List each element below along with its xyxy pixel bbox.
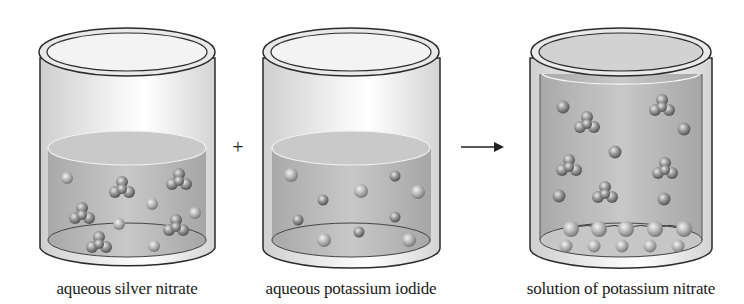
- label-potassium-iodide: aqueous potassium iodide: [266, 279, 437, 299]
- beaker-potassium-nitrate: [530, 28, 712, 268]
- label-potassium-nitrate: solution of potassium nitrate: [527, 279, 715, 299]
- reaction-diagram: +: [0, 0, 744, 304]
- beaker-potassium-iodide: [263, 28, 440, 268]
- beaker-silver-nitrate: [39, 28, 215, 266]
- plus-operator: +: [232, 136, 243, 158]
- label-silver-nitrate: aqueous silver nitrate: [57, 279, 198, 299]
- reaction-arrow: [461, 142, 504, 152]
